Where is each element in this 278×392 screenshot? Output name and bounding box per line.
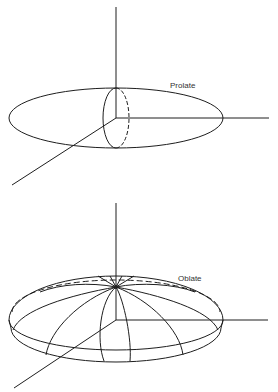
oblate-rim-upper: [9, 320, 223, 350]
prolate-figure: Prolate: [9, 7, 269, 185]
oblate-rim-edge-left: [9, 320, 11, 328]
prolate-diagonal-axis: [12, 118, 116, 185]
oblate-pole: [114, 285, 118, 289]
oblate-diagonal-axis: [14, 320, 116, 388]
prolate-label: Prolate: [170, 81, 196, 90]
spheroid-diagram: Prolate Oblate: [0, 0, 278, 392]
oblate-figure: Oblate: [9, 203, 268, 388]
prolate-cross-section-front: [103, 88, 116, 148]
oblate-rim-edge-right: [221, 320, 223, 328]
oblate-rim-lower: [11, 328, 221, 362]
oblate-label: Oblate: [178, 274, 202, 283]
